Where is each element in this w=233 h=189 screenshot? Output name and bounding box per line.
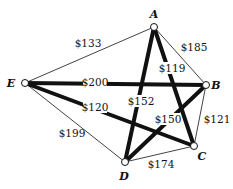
edge-weight-c-d: $174 xyxy=(148,158,175,170)
node-label-c: C xyxy=(198,150,207,163)
nodes-layer: ABCDE xyxy=(6,8,221,183)
edge-e-b xyxy=(25,83,206,85)
node-b xyxy=(203,82,210,89)
edge-weight-b-c: $121 xyxy=(204,113,231,125)
node-c xyxy=(191,143,198,150)
edge-a-e xyxy=(25,27,154,83)
edge-weight-a-c: $119 xyxy=(159,62,186,74)
edge-weight-e-b: $200 xyxy=(82,76,109,88)
node-label-a: A xyxy=(149,8,159,21)
edges-layer xyxy=(25,27,206,162)
node-e xyxy=(22,80,29,87)
edge-weight-b-d: $150 xyxy=(155,113,182,125)
node-a xyxy=(151,24,158,31)
edge-weight-a-e: $133 xyxy=(75,37,102,49)
node-label-e: E xyxy=(6,77,16,90)
edge-weight-a-b: $185 xyxy=(181,41,208,53)
edge-weight-a-d: $152 xyxy=(128,95,155,107)
edge-weight-d-e: $199 xyxy=(59,127,86,139)
node-d xyxy=(122,159,129,166)
node-label-d: D xyxy=(118,170,129,183)
edge-weight-e-c: $120 xyxy=(82,101,109,113)
weighted-graph-diagram: $133$185$121$174$199$200$152$119$120$150… xyxy=(0,0,233,189)
edge-d-e xyxy=(25,83,125,162)
node-label-b: B xyxy=(210,79,220,92)
